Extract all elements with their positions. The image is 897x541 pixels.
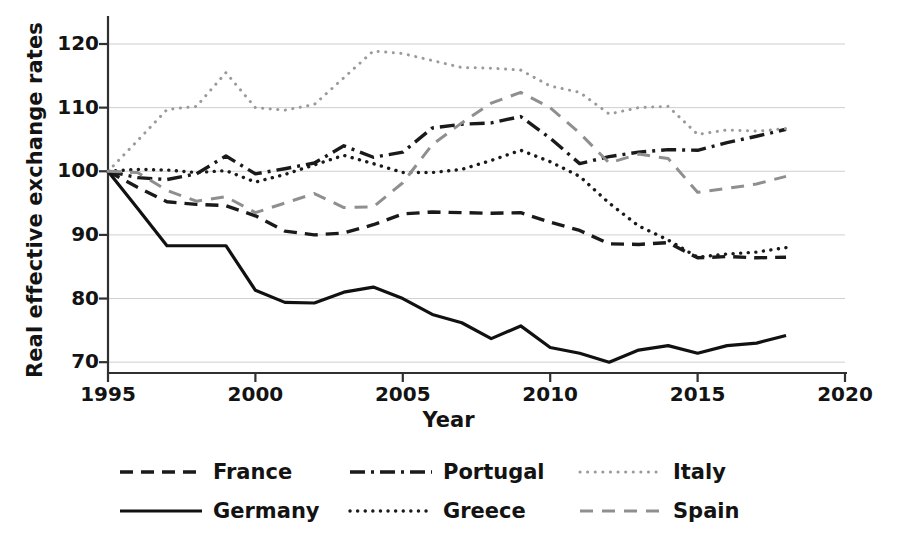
legend-key-france <box>118 464 204 480</box>
legend-label-france: France <box>213 460 292 484</box>
chart-figure: Real effective exchange rates Year 70809… <box>0 0 897 541</box>
legend-item-greece[interactable]: Greece <box>348 499 578 523</box>
legend-label-italy: Italy <box>673 460 726 484</box>
series-line-portugal <box>108 117 786 180</box>
legend-key-italy <box>578 464 664 480</box>
legend-key-portugal <box>348 464 434 480</box>
legend-label-germany: Germany <box>213 499 320 523</box>
legend-label-greece: Greece <box>443 499 526 523</box>
legend-label-portugal: Portugal <box>443 460 545 484</box>
legend-item-germany[interactable]: Germany <box>118 499 348 523</box>
series-line-italy <box>108 51 786 171</box>
legend-label-spain: Spain <box>673 499 739 523</box>
series-line-germany <box>108 171 786 362</box>
legend-item-spain[interactable]: Spain <box>578 499 808 523</box>
chart-legend: FrancePortugalItalyGermanyGreeceSpain <box>118 452 808 532</box>
legend-key-greece <box>348 503 434 519</box>
legend-item-portugal[interactable]: Portugal <box>348 460 578 484</box>
legend-key-spain <box>578 503 664 519</box>
legend-item-france[interactable]: France <box>118 460 348 484</box>
legend-item-italy[interactable]: Italy <box>578 460 808 484</box>
legend-key-germany <box>118 503 204 519</box>
series-line-spain <box>108 92 786 212</box>
